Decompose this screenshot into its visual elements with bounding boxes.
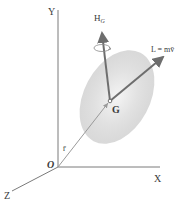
mass-center-label: G: [112, 104, 120, 115]
position-vector-label: r̄: [63, 144, 67, 153]
linear-momentum-label: L = mv̄: [151, 45, 174, 54]
z-axis: [12, 167, 58, 191]
origin-label: O: [47, 159, 54, 170]
angular-momentum-label: HG: [94, 13, 106, 24]
z-axis-label: Z: [4, 190, 10, 201]
x-axis-label: X: [154, 173, 162, 184]
y-axis-label: Y: [48, 6, 55, 17]
mass-center-point: [108, 99, 112, 103]
angular-momentum-label-sub: G: [101, 18, 106, 24]
momentum-diagram: Y X Z O G r̄ HG L = mv̄: [0, 0, 187, 206]
